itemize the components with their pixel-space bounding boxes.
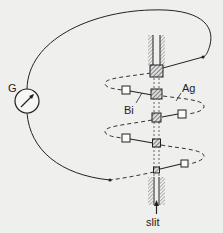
cold-junction-2 [178, 110, 186, 118]
label-silver: Ag [182, 82, 195, 94]
wire-bottom [27, 113, 110, 180]
label-galvanometer: G [8, 82, 17, 94]
junction-1 [150, 65, 163, 77]
hot-junctions [150, 65, 163, 173]
arrow-up-icon [154, 200, 159, 206]
cold-junction-3 [122, 134, 130, 142]
cold-junction-4 [181, 160, 188, 167]
junction-2 [151, 89, 162, 99]
junction-5 [154, 167, 160, 173]
label-bismuth: Bi [124, 104, 134, 116]
ag-leader [176, 93, 181, 101]
junction-3 [152, 113, 161, 122]
wire-top [27, 10, 211, 89]
galvanometer [15, 89, 39, 113]
junction-4 [153, 139, 161, 147]
slit-housing-top [148, 35, 165, 66]
thermopile-diagram: G Bi Ag slit [0, 0, 223, 233]
bi-wires [130, 91, 181, 169]
cold-junction-1 [122, 86, 130, 94]
bi-leader [136, 93, 142, 103]
wire-top-lead [163, 57, 203, 68]
label-slit: slit [146, 216, 159, 228]
